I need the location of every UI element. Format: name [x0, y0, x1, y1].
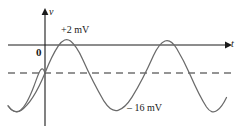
- trough-value-label: – 16 mV: [127, 103, 162, 113]
- time-axis-label: t: [231, 39, 234, 49]
- origin-label: 0: [36, 47, 42, 58]
- peak-value-label: +2 mV: [61, 25, 89, 35]
- waveform-plot: [0, 0, 242, 133]
- voltage-axis-arrowhead: [42, 8, 49, 15]
- voltage-axis-label: v: [49, 7, 53, 17]
- waveform-figure: v t 0 +2 mV – 16 mV: [0, 0, 242, 133]
